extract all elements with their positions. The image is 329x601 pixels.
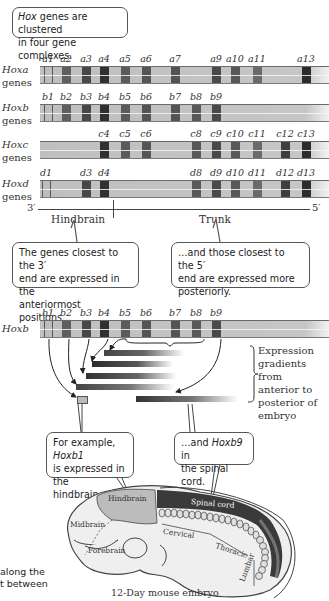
text-line: t between (0, 578, 48, 590)
embryo-label-forebrain: Forebrain (88, 546, 125, 555)
cut-off-text: along the t between (0, 566, 48, 590)
text-line: along the (0, 566, 48, 578)
embryo-caption: 12-Day mouse embryo (111, 587, 219, 598)
connector-arrows (0, 0, 329, 601)
embryo-label-hindbrain: Hindbrain (108, 494, 147, 503)
embryo-label-midbrain: Midbrain (70, 520, 105, 529)
